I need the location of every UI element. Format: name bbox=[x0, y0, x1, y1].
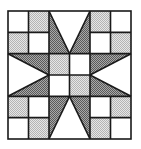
quilt-square-white bbox=[111, 11, 132, 32]
quilt-square-white bbox=[90, 96, 111, 117]
quilt-square-white bbox=[29, 32, 50, 53]
quilt-square-light bbox=[90, 118, 111, 139]
quilt-square-white bbox=[29, 96, 50, 117]
quilt-square-light bbox=[90, 11, 111, 32]
quilt-square-light bbox=[70, 75, 91, 96]
quilt-square-white bbox=[90, 32, 111, 53]
quilt-square-light bbox=[111, 96, 132, 117]
quilt-square-light bbox=[111, 32, 132, 53]
quilt-square-white bbox=[49, 75, 70, 96]
quilt-square-white bbox=[111, 118, 132, 139]
quilt-square-light bbox=[29, 118, 50, 139]
quilt-square-light bbox=[8, 32, 29, 53]
quilt-block-diagram bbox=[0, 0, 141, 149]
quilt-square-light bbox=[29, 11, 50, 32]
quilt-square-white bbox=[8, 118, 29, 139]
quilt-square-white bbox=[70, 54, 91, 75]
quilt-square-light bbox=[49, 54, 70, 75]
quilt-square-white bbox=[8, 11, 29, 32]
quilt-square-light bbox=[8, 96, 29, 117]
